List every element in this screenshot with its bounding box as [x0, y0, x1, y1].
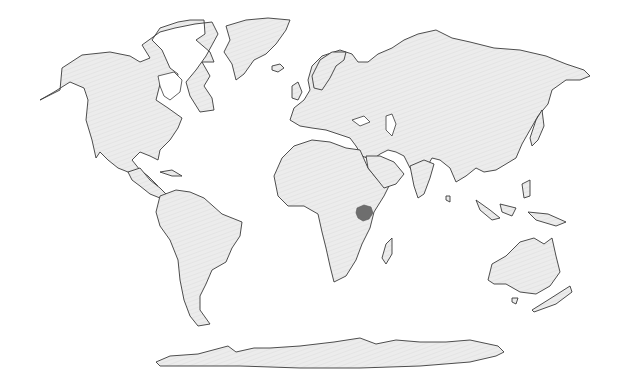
tasmania	[512, 298, 518, 304]
british-isles	[292, 82, 302, 100]
madagascar	[382, 238, 392, 264]
south-america	[156, 190, 242, 326]
cuba	[160, 170, 182, 176]
antarctica	[156, 338, 504, 368]
australia	[488, 238, 560, 294]
indian-subcontinent	[410, 160, 434, 198]
north-america	[40, 20, 218, 190]
indonesia	[476, 200, 566, 226]
hudson-bay	[158, 72, 182, 100]
philippines	[522, 180, 530, 198]
world-map	[0, 0, 631, 378]
sri-lanka	[446, 196, 450, 202]
iceland	[272, 64, 284, 72]
